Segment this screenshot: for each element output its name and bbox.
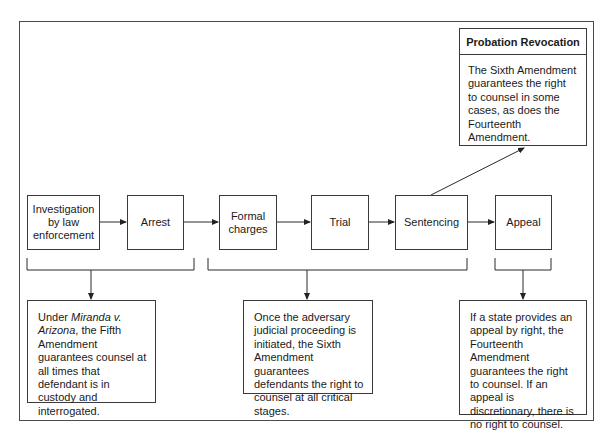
note-miranda-prefix: Under: [38, 311, 71, 323]
stage-sentencing: Sentencing: [395, 195, 468, 250]
probation-revocation-title: Probation Revocation: [460, 29, 586, 55]
stage-investigation-label: Investigation by law enforcement: [33, 203, 95, 242]
probation-revocation-text: The Sixth Amendment guarantees the right…: [460, 55, 586, 144]
note-sixth-amendment-text: Once the adversary judicial proceeding i…: [254, 311, 363, 417]
stage-investigation: Investigation by law enforcement: [27, 195, 100, 250]
stage-appeal: Appeal: [495, 195, 552, 250]
stage-formal-charges: Formal charges: [219, 195, 277, 250]
note-miranda: Under Miranda v. Arizona, the Fifth Amen…: [27, 300, 156, 403]
note-appeal: If a state provides an appeal by right, …: [459, 300, 587, 415]
stage-trial-label: Trial: [330, 216, 351, 229]
probation-revocation-box: Probation Revocation The Sixth Amendment…: [459, 28, 587, 146]
stage-arrest: Arrest: [127, 195, 184, 250]
stage-trial: Trial: [311, 195, 369, 250]
note-appeal-text: If a state provides an appeal by right, …: [470, 311, 574, 430]
note-sixth-amendment: Once the adversary judicial proceeding i…: [243, 300, 373, 394]
note-miranda-suffix: , the Fifth Amendment guarantees counsel…: [38, 324, 146, 416]
stage-arrest-label: Arrest: [141, 216, 170, 229]
stage-appeal-label: Appeal: [506, 216, 540, 229]
stage-formal-charges-label: Formal charges: [228, 210, 267, 236]
stage-sentencing-label: Sentencing: [404, 216, 459, 229]
